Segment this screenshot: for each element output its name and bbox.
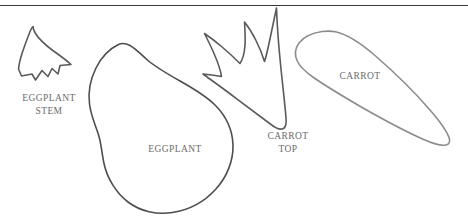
label-carrot-top: CARROT TOP (246, 130, 330, 156)
carrot-top-outline (203, 8, 286, 129)
eggplant-stem-outline (19, 27, 72, 81)
label-eggplant-stem: EGGPLANT STEM (0, 92, 98, 118)
pattern-sheet: EGGPLANT STEM EGGPLANT CARROT TOP CARROT (0, 0, 468, 219)
label-carrot: CARROT (320, 70, 400, 83)
label-eggplant: EGGPLANT (120, 143, 230, 156)
eggplant-body-outline (89, 44, 233, 214)
carrot-body-outline (296, 31, 450, 145)
